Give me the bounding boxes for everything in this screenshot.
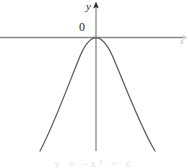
- y-axis-label: y: [86, 1, 91, 12]
- figure-caption: y = -x² + c: [0, 158, 188, 168]
- origin-label: 0: [79, 21, 85, 33]
- coordinate-plot: [0, 0, 188, 168]
- parabola-figure: y 0 x y = -x² + c: [0, 0, 188, 168]
- x-axis-label: x: [180, 38, 184, 46]
- parabola-curve: [40, 38, 155, 151]
